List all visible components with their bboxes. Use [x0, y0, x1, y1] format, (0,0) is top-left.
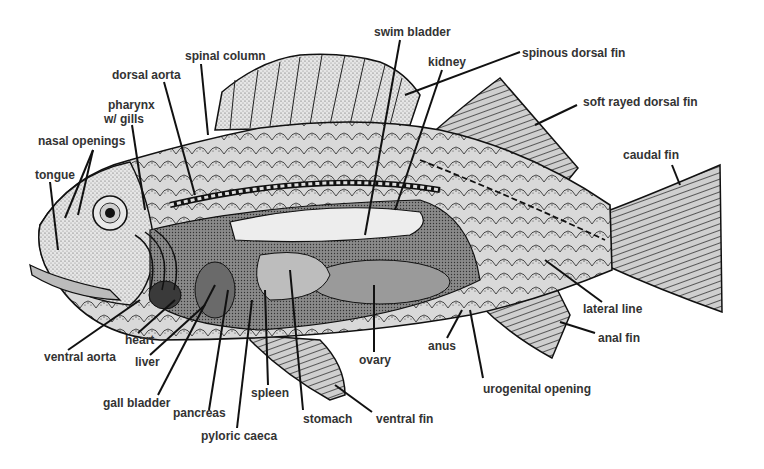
label-ventral-aorta: ventral aorta [44, 351, 116, 364]
label-lateral-line: lateral line [583, 303, 642, 316]
label-nasal-openings: nasal openings [38, 135, 125, 148]
label-anus: anus [428, 340, 456, 353]
fish-anatomy-diagram: swim bladder spinous dorsal fin spinal c… [0, 0, 764, 469]
label-spleen: spleen [251, 387, 289, 400]
label-pyloric-caeca: pyloric caeca [201, 430, 277, 443]
label-soft-rayed-dorsal-fin: soft rayed dorsal fin [583, 96, 698, 109]
caudal-fin-shape [605, 165, 722, 312]
ovary-shape [310, 260, 450, 304]
label-dorsal-aorta: dorsal aorta [112, 69, 181, 82]
label-kidney: kidney [428, 56, 466, 69]
spinous-dorsal-fin-shape [215, 54, 420, 130]
label-stomach: stomach [303, 413, 352, 426]
label-swim-bladder: swim bladder [374, 26, 451, 39]
label-gall-bladder: gall bladder [103, 397, 170, 410]
label-caudal-fin: caudal fin [623, 149, 679, 162]
label-pancreas: pancreas [173, 407, 226, 420]
label-spinous-dorsal-fin: spinous dorsal fin [522, 47, 625, 60]
label-ventral-fin: ventral fin [376, 413, 433, 426]
label-spinal-column: spinal column [185, 50, 266, 63]
label-pharynx-line1: pharynx [108, 99, 155, 112]
label-tongue: tongue [35, 169, 75, 182]
label-heart: heart [125, 334, 154, 347]
label-pharynx-line2: w/ gills [104, 113, 144, 126]
label-liver: liver [135, 356, 160, 369]
label-urogenital-opening: urogenital opening [483, 383, 591, 396]
label-ovary: ovary [359, 354, 391, 367]
heart-shape [149, 281, 181, 309]
label-anal-fin: anal fin [598, 332, 640, 345]
